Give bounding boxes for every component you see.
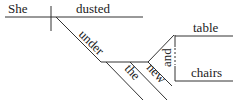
conjunction-word: and — [159, 48, 174, 67]
object-word-2: chairs — [191, 65, 222, 80]
subject-word: She — [8, 1, 28, 16]
sentence-diagram: She dusted under the new and table chair… — [0, 0, 234, 104]
object-word-1: table — [193, 20, 218, 35]
preposition-word: under — [76, 27, 108, 59]
verb-word: dusted — [76, 1, 110, 16]
